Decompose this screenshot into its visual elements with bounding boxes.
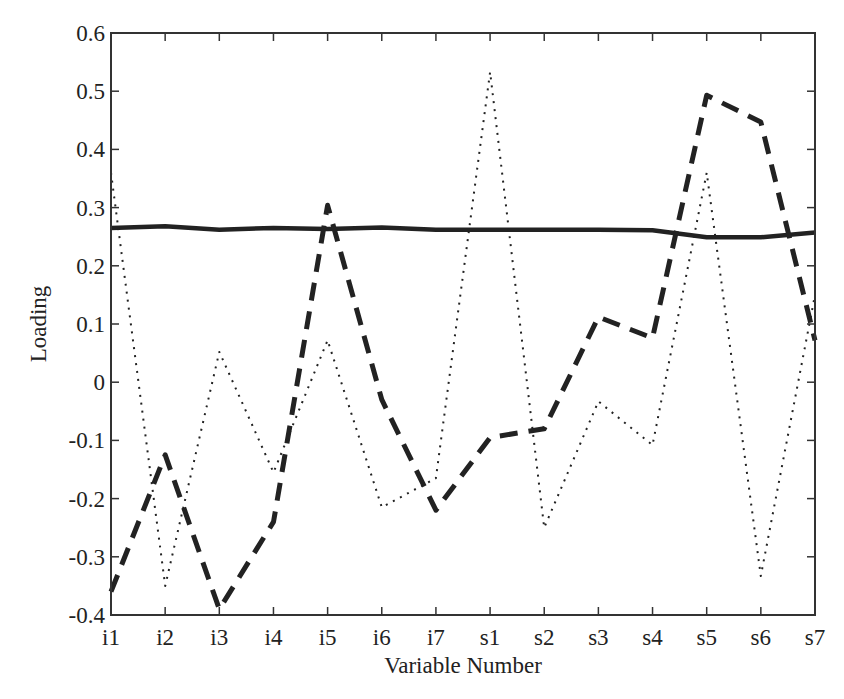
y-axis-tick-labels: -0.4-0.3-0.2-0.100.10.20.30.40.50.6: [69, 21, 106, 628]
y-tick-label: 0.1: [76, 312, 105, 337]
x-axis-title: Variable Number: [384, 653, 542, 678]
x-tick-label: i6: [373, 625, 391, 650]
series-line-dashed: [111, 95, 815, 609]
x-tick-label: s1: [480, 625, 500, 650]
axis-ticks: [111, 33, 815, 615]
y-tick-label: 0.3: [76, 196, 105, 221]
plot-frame: [111, 33, 815, 615]
x-tick-label: s2: [534, 625, 554, 650]
x-tick-label: i2: [156, 625, 174, 650]
series-line-dotted: [111, 72, 815, 586]
y-tick-label: -0.3: [69, 545, 105, 570]
x-tick-label: i7: [427, 625, 445, 650]
x-tick-label: s5: [696, 625, 716, 650]
x-tick-label: s7: [805, 625, 825, 650]
x-tick-label: s3: [588, 625, 608, 650]
y-tick-label: 0.2: [76, 254, 105, 279]
y-tick-label: 0.5: [76, 79, 105, 104]
y-tick-label: 0.4: [76, 137, 105, 162]
x-tick-label: s6: [751, 625, 771, 650]
series-layer: [111, 72, 815, 609]
y-tick-label: 0: [94, 370, 106, 395]
y-tick-label: -0.1: [69, 428, 105, 453]
x-tick-label: s4: [642, 625, 663, 650]
y-tick-label: -0.4: [69, 603, 106, 628]
y-tick-label: 0.6: [76, 21, 105, 46]
x-tick-label: i3: [210, 625, 228, 650]
x-tick-label: i4: [265, 625, 283, 650]
y-axis-title: Loading: [26, 285, 51, 362]
x-tick-label: i5: [319, 625, 337, 650]
x-axis-tick-labels: i1i2i3i4i5i6i7s1s2s3s4s5s6s7: [102, 625, 825, 650]
y-tick-label: -0.2: [69, 487, 105, 512]
loading-line-chart: -0.4-0.3-0.2-0.100.10.20.30.40.50.6 i1i2…: [0, 0, 844, 699]
x-tick-label: i1: [102, 625, 120, 650]
chart-canvas: -0.4-0.3-0.2-0.100.10.20.30.40.50.6 i1i2…: [0, 0, 844, 699]
series-line-solid: [111, 226, 815, 237]
